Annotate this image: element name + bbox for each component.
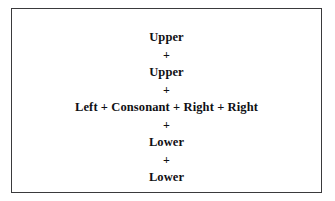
formula-operator: + (163, 82, 170, 100)
formula-term: Lower (149, 134, 184, 152)
figure-root: Upper+Upper+Left + Consonant + Right + R… (0, 0, 335, 201)
formula-operator: + (163, 152, 170, 170)
formula-operator: + (163, 117, 170, 135)
figure-border-box: Upper+Upper+Left + Consonant + Right + R… (11, 8, 322, 193)
formula-term: Lower (149, 169, 184, 187)
formula-term: Upper (149, 64, 184, 82)
formula-stack: Upper+Upper+Left + Consonant + Right + R… (12, 29, 321, 187)
formula-term: Upper (149, 29, 184, 47)
formula-operator: + (163, 47, 170, 65)
formula-term: Left + Consonant + Right + Right (75, 99, 258, 117)
